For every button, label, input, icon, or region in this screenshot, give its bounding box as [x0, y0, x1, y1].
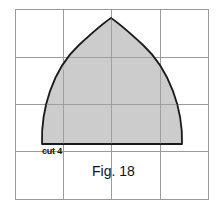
arch-shape [42, 18, 182, 144]
figure-caption: Fig. 18 [92, 163, 135, 179]
cut-label: cut 4 [42, 146, 62, 156]
pattern-diagram [0, 0, 216, 211]
